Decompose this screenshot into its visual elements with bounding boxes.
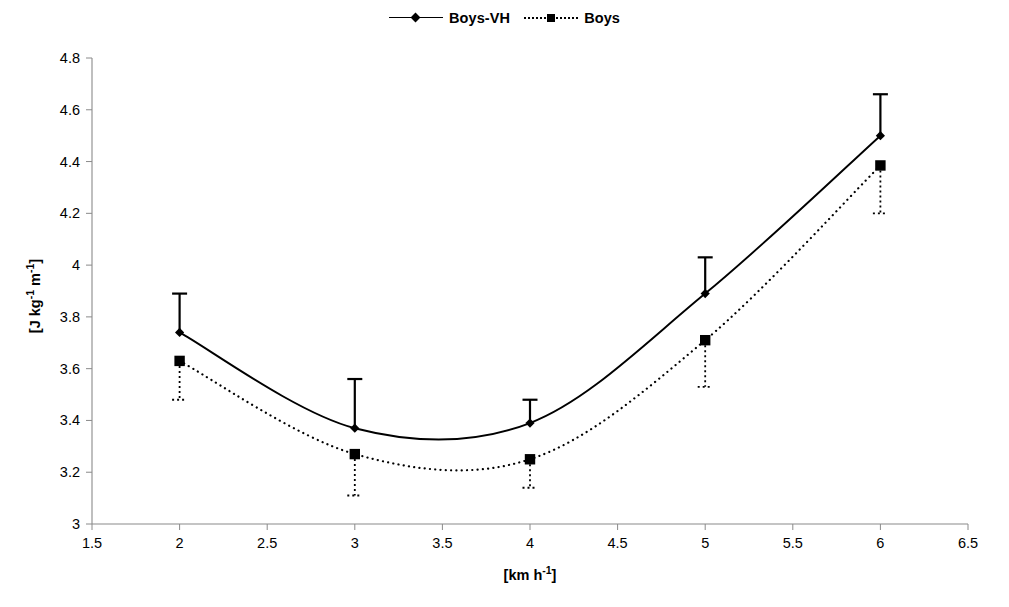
- series-line: [180, 136, 881, 440]
- y-tick-label: 3.8: [60, 309, 80, 325]
- y-tick-label: 4.4: [60, 154, 80, 170]
- x-tick-label: 6: [876, 535, 884, 551]
- y-tick-label: 4.6: [60, 102, 80, 118]
- x-tick-label: 3: [351, 535, 359, 551]
- square-marker-icon: [350, 449, 360, 459]
- error-bar: [873, 165, 888, 213]
- x-tick-label: 2.5: [257, 535, 277, 551]
- square-marker-icon: [174, 356, 184, 366]
- plot-area: 33.23.43.63.844.24.44.64.8 1.522.533.544…: [0, 0, 1009, 607]
- x-tick-label: 5.5: [783, 535, 803, 551]
- x-axis-ticks: 1.522.533.544.555.566.5: [82, 524, 978, 551]
- y-tick-label: 4: [72, 257, 80, 273]
- diamond-marker-icon: [175, 328, 184, 337]
- data-series-group: [172, 94, 888, 495]
- svg-text:[km h-1]: [km h-1]: [504, 564, 557, 583]
- diamond-marker-icon: [350, 424, 359, 433]
- y-tick-label: 3.4: [60, 412, 80, 428]
- error-bar: [698, 340, 713, 387]
- x-tick-label: 5: [701, 535, 709, 551]
- y-axis-title: [J kg-1 m-1]: [24, 259, 43, 333]
- x-tick-label: 2: [176, 535, 184, 551]
- x-tick-label: 4: [526, 535, 534, 551]
- x-tick-label: 1.5: [82, 535, 102, 551]
- error-bar: [347, 454, 362, 495]
- diamond-marker-icon: [525, 418, 534, 427]
- square-marker-icon: [525, 454, 535, 464]
- x-tick-label: 3.5: [432, 535, 452, 551]
- error-bar: [873, 94, 888, 135]
- x-tick-label: 6.5: [958, 535, 978, 551]
- series-boys-vh: [172, 94, 888, 439]
- error-bar: [172, 361, 187, 400]
- x-axis-title: [km h-1]: [504, 564, 557, 583]
- svg-text:[J kg-1 m-1]: [J kg-1 m-1]: [24, 259, 43, 333]
- y-tick-label: 4.2: [60, 205, 80, 221]
- error-bar: [347, 379, 362, 428]
- x-tick-label: 4.5: [608, 535, 628, 551]
- series-boys: [172, 160, 888, 495]
- chart-container: Boys-VH Boys 33.23.43.63.844.24.44.64.8 …: [0, 0, 1009, 607]
- y-tick-label: 3: [72, 516, 80, 532]
- y-tick-label: 3.2: [60, 464, 80, 480]
- y-axis-ticks: 33.23.43.63.844.24.44.64.8: [60, 50, 92, 532]
- y-tick-label: 3.6: [60, 361, 80, 377]
- square-marker-icon: [875, 160, 885, 170]
- y-tick-label: 4.8: [60, 50, 80, 66]
- error-bar: [172, 294, 187, 333]
- square-marker-icon: [700, 335, 710, 345]
